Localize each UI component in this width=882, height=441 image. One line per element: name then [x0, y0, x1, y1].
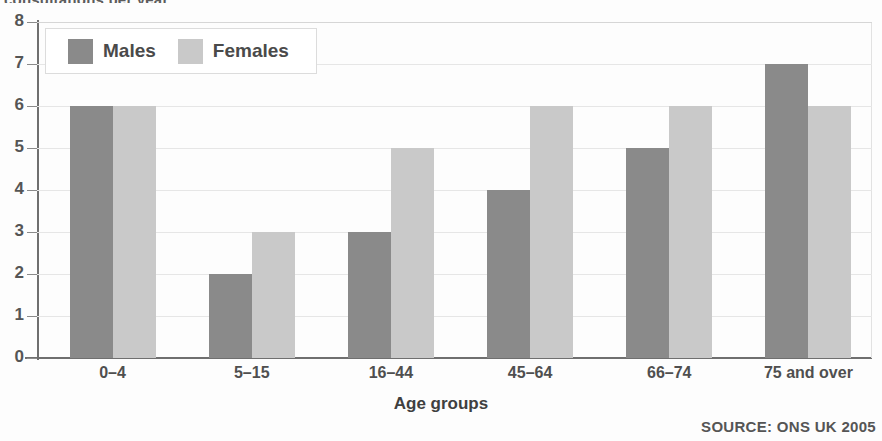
y-axis-tick — [27, 316, 37, 317]
source-note: SOURCE: ONS UK 2005 — [701, 418, 876, 435]
legend-label-males: Males — [103, 40, 156, 62]
y-axis-tick-label: 5 — [2, 137, 24, 157]
bar-females-6 — [808, 106, 851, 358]
y-axis-tick — [27, 148, 37, 149]
x-axis-category-label: 45–64 — [457, 364, 603, 382]
bar-males-6 — [765, 64, 808, 358]
y-axis-tick-label: 8 — [2, 11, 24, 31]
gridline — [37, 148, 872, 149]
y-axis-tick — [27, 232, 37, 233]
bar-group — [348, 22, 434, 358]
x-axis-category-label: 75 and over — [735, 364, 881, 382]
y-axis-tick — [27, 358, 37, 359]
gridline — [37, 316, 872, 317]
bar-group — [765, 22, 851, 358]
y-axis-tick-label: 4 — [2, 179, 24, 199]
bar-females-3 — [391, 148, 434, 358]
bar-females-2 — [252, 232, 295, 358]
x-axis-category-label: 0–4 — [40, 364, 186, 382]
gridline — [37, 106, 872, 107]
bar-males-4 — [487, 190, 530, 358]
legend-swatch-females-icon — [178, 39, 203, 64]
legend-swatch-males-icon — [68, 39, 93, 64]
y-axis-tick-label: 6 — [2, 95, 24, 115]
y-axis-tick — [27, 64, 37, 65]
gridline — [37, 190, 872, 191]
gridline — [37, 274, 872, 275]
x-axis-title: Age groups — [0, 394, 882, 414]
legend-label-females: Females — [213, 40, 289, 62]
y-axis-tick — [27, 22, 37, 23]
bar-males-3 — [348, 232, 391, 358]
x-axis-category-label: 5–15 — [179, 364, 325, 382]
y-axis-tick — [27, 274, 37, 275]
x-axis-category-label: 66–74 — [596, 364, 742, 382]
y-axis-tick — [27, 190, 37, 191]
bar-group — [487, 22, 573, 358]
x-axis-category-label: 16–44 — [318, 364, 464, 382]
chart-title: consultations per year — [4, 0, 168, 3]
bar-males-1 — [70, 106, 113, 358]
bar-males-5 — [626, 148, 669, 358]
y-axis-tick — [27, 106, 37, 107]
y-axis-tick-label: 7 — [2, 53, 24, 73]
y-axis-tick-label: 2 — [2, 263, 24, 283]
bar-group — [626, 22, 712, 358]
legend-item-females: Females — [178, 39, 289, 64]
gridline — [37, 22, 872, 23]
bar-females-5 — [669, 106, 712, 358]
y-axis-tick-label: 1 — [2, 305, 24, 325]
bar-females-4 — [530, 106, 573, 358]
y-axis-tick-label: 0 — [2, 347, 24, 367]
y-axis-labels: 012345678 — [0, 0, 24, 441]
bar-males-2 — [209, 274, 252, 358]
legend-item-males: Males — [68, 39, 156, 64]
bar-females-1 — [113, 106, 156, 358]
bar-chart-screenshot: consultations per year 012345678 Males F… — [0, 0, 882, 441]
y-axis-tick-label: 3 — [2, 221, 24, 241]
gridline — [37, 232, 872, 233]
chart-legend: Males Females — [45, 28, 317, 74]
